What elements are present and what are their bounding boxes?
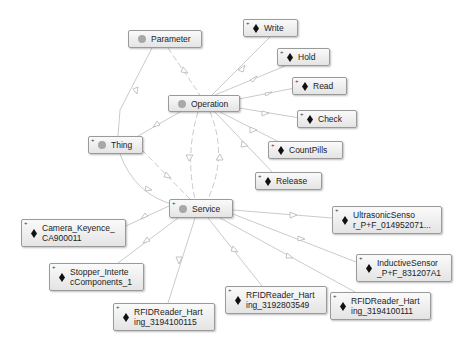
node-label: Camera_Keyence_ CA900011: [42, 223, 115, 243]
arrow-op-service-2: [216, 154, 223, 160]
edge-service-ultrasonic: [233, 210, 332, 218]
class-icon: [179, 205, 187, 213]
expand-icon[interactable]: +: [295, 78, 299, 84]
individual-node-hold[interactable]: + Hold: [277, 48, 330, 66]
expand-icon[interactable]: +: [335, 207, 339, 213]
arrow-rfid549: [231, 246, 238, 252]
expand-icon[interactable]: +: [359, 255, 363, 261]
expand-icon[interactable]: +: [172, 200, 176, 206]
individual-node-check[interactable]: + Check: [297, 110, 357, 128]
node-label: Check: [318, 114, 342, 124]
edge-thing-service-solid: [120, 154, 175, 205]
individual-node-release[interactable]: + Release: [255, 172, 322, 190]
individual-diamond-icon: [342, 216, 348, 225]
arrow-release: [241, 141, 248, 147]
node-label: RFIDReader_Hart ing_3194100111: [351, 296, 420, 316]
expand-icon[interactable]: +: [246, 20, 250, 26]
individual-diamond-icon: [278, 146, 284, 155]
arrow-check: [262, 111, 269, 116]
arrow-countpills: [250, 127, 257, 133]
individual-diamond-icon: [307, 115, 313, 124]
arrow-inductive: [298, 236, 305, 241]
node-label: Service: [192, 204, 220, 214]
node-label: RFIDReader_Hart ing_3192803549: [246, 290, 315, 310]
expand-icon[interactable]: +: [24, 220, 28, 226]
class-icon: [178, 100, 186, 108]
individual-diamond-icon: [302, 82, 308, 91]
individual-node-write[interactable]: + Write: [243, 19, 298, 37]
arrow-ultrasonic: [290, 212, 297, 218]
node-label: InductiveSensor _P+F_831207A1: [377, 258, 441, 278]
arrow-param-thing: [133, 87, 138, 94]
individual-diamond-icon: [235, 296, 241, 305]
expand-icon[interactable]: +: [91, 137, 95, 143]
individual-diamond-icon: [265, 177, 271, 186]
node-label: Parameter: [151, 34, 191, 44]
individual-node-rfid-3194100111[interactable]: + RFIDReader_Hart ing_3194100111: [330, 292, 431, 320]
edge-service-rfid115: [168, 218, 195, 303]
arrow-op-thing: [153, 121, 160, 127]
individual-diamond-icon: [31, 229, 37, 238]
individual-node-countpills[interactable]: + CountPills: [268, 141, 343, 159]
node-label: Operation: [191, 99, 228, 109]
individual-diamond-icon: [366, 264, 372, 273]
arrow-camera: [141, 213, 148, 219]
class-icon: [98, 141, 106, 149]
node-label: Write: [264, 23, 284, 33]
arrow-stopper: [143, 237, 150, 243]
individual-diamond-icon: [340, 302, 346, 311]
edge-service-rfid549: [208, 218, 262, 286]
class-node-parameter[interactable]: Parameter: [128, 30, 202, 48]
expand-icon[interactable]: +: [228, 287, 232, 293]
expand-icon[interactable]: +: [52, 264, 56, 270]
individual-node-rfid-3192803549[interactable]: + RFIDReader_Hart ing_3192803549: [225, 286, 327, 314]
expand-icon[interactable]: +: [258, 173, 262, 179]
arrow-thing-service: [145, 186, 152, 191]
class-node-operation[interactable]: Operation: [168, 95, 240, 112]
individual-diamond-icon: [287, 53, 293, 62]
node-label: Thing: [111, 140, 132, 150]
ontology-graph-canvas: Parameter Operation + Thing + Service + …: [0, 0, 473, 347]
class-icon: [138, 35, 146, 43]
node-label: Release: [276, 176, 307, 186]
node-label: RFIDReader_Hart ing_3194100115: [134, 307, 203, 327]
arrow-param-op: [181, 67, 188, 73]
arrow-rfid111: [286, 253, 293, 258]
individual-node-rfid-3194100115[interactable]: + RFIDReader_Hart ing_3194100115: [113, 303, 215, 331]
individual-diamond-icon: [59, 273, 65, 282]
expand-icon[interactable]: +: [271, 142, 275, 148]
node-label: Stopper_Interte cComponents_1: [70, 267, 132, 287]
expand-icon[interactable]: +: [300, 111, 304, 117]
individual-diamond-icon: [123, 313, 129, 322]
edge-operation-service-2: [208, 112, 219, 199]
arrow-op-service-1: [186, 155, 193, 161]
individual-diamond-icon: [253, 24, 259, 33]
individual-node-camera[interactable]: + Camera_Keyence_ CA900011: [21, 219, 126, 247]
individual-node-inductive[interactable]: + InductiveSensor _P+F_831207A1: [356, 254, 452, 282]
individual-node-ultrasonic[interactable]: + UltrasonicSenso r_P+F_014952071...: [332, 206, 442, 234]
expand-icon[interactable]: +: [280, 49, 284, 55]
arrow-hold: [250, 76, 257, 82]
node-label: Read: [313, 81, 333, 91]
individual-node-read[interactable]: + Read: [292, 77, 347, 95]
class-node-thing[interactable]: + Thing: [88, 136, 143, 154]
expand-icon[interactable]: +: [333, 293, 337, 299]
expand-icon[interactable]: +: [116, 304, 120, 310]
individual-node-stopper[interactable]: + Stopper_Interte cComponents_1: [49, 263, 144, 291]
node-label: CountPills: [289, 145, 327, 155]
node-label: Hold: [298, 52, 315, 62]
edge-operation-write: [212, 37, 270, 95]
class-node-service[interactable]: + Service: [169, 199, 233, 218]
node-label: UltrasonicSenso r_P+F_014952071...: [353, 210, 431, 230]
edge-operation-hold: [215, 66, 285, 95]
arrow-read: [265, 92, 272, 96]
